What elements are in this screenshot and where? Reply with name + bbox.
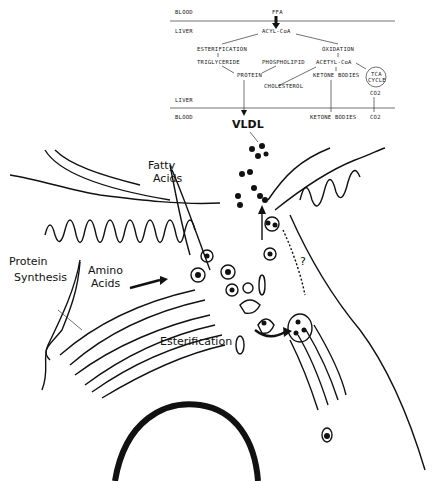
microvilli-right [300, 171, 360, 206]
sinusoid-wall-left [10, 175, 220, 203]
compartment-blood-top: BLOOD [175, 9, 193, 15]
node-ffa: FFA [272, 9, 283, 15]
label-fatty: Fatty [148, 159, 176, 172]
protein-synthesis-leader [58, 310, 82, 330]
arrowhead-vldl [241, 110, 247, 116]
node-tca-cycle: CYCLE [368, 77, 386, 83]
fatty-acid-arrow-2 [172, 170, 210, 270]
node-esterification: ESTERIFICATION [197, 46, 247, 52]
cell-membrane-right [290, 215, 425, 470]
node-vldl: VLDL [232, 118, 264, 131]
label-protein: Protein [9, 255, 48, 268]
node-ketone-bodies-blood: KETONE BODIES [310, 114, 356, 120]
label-synthesis: Synthesis [14, 271, 67, 284]
node-co2-blood: CO2 [370, 114, 381, 120]
node-acetyl-coa: ACETYL-CoA [316, 59, 352, 65]
unknown-pathway-label: ? [300, 255, 306, 268]
smooth-er-vesicles [191, 193, 279, 354]
compartment-liver-top: LIVER [175, 28, 193, 34]
pathway-scheme: BLOOD LIVER LIVER BLOOD FFA ACYL-CoA EST… [170, 9, 395, 131]
node-triglyceride: TRIGLYCERIDE [197, 59, 240, 65]
node-acyl-coa: ACYL-CoA [262, 28, 291, 34]
compartment-liver-bottom: LIVER [175, 97, 193, 103]
node-protein: PROTEIN [237, 72, 262, 78]
hepatocyte-vldl-diagram: BLOOD LIVER LIVER BLOOD FFA ACYL-CoA EST… [0, 0, 432, 481]
compartment-blood-bottom: BLOOD [175, 114, 193, 120]
label-amino-acids: Acids [91, 277, 120, 290]
label-acids: Acids [153, 172, 182, 185]
golgi-apparatus [288, 314, 346, 442]
label-esterification: Esterification [160, 335, 232, 348]
amino-acid-arrowhead [160, 276, 168, 285]
arrow-acyl-to-esterification [222, 34, 258, 44]
node-co2-liver: CO2 [370, 90, 381, 96]
node-oxidation: OXIDATION [322, 46, 354, 52]
secretion-arrowhead [258, 205, 266, 214]
node-cholesterol: CHOLESTEROL [264, 83, 304, 89]
nucleus-envelope [115, 404, 258, 481]
amino-acid-arrow [130, 280, 160, 288]
arrow-acetyl-to-tca [356, 63, 366, 69]
endothelial-process-inner [55, 150, 140, 185]
arrow-tg-to-protein [222, 66, 234, 73]
node-phospholipid: PHOSPHOLIPID [262, 59, 305, 65]
vldl-particles [235, 143, 269, 203]
microvilli-left [45, 220, 195, 243]
arrow-pl-to-protein [262, 66, 276, 73]
cell-illustration: ? Fatty Acids Protein Synthesis Amino Ac… [9, 132, 425, 481]
label-amino: Amino [88, 264, 123, 277]
vldl-arrow [250, 132, 258, 142]
node-ketone-bodies: KETONE BODIES [313, 72, 359, 78]
arrow-acyl-to-oxidation [296, 34, 338, 44]
